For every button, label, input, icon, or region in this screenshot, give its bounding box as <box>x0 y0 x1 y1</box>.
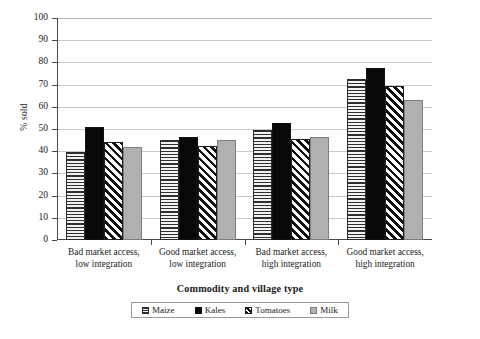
category-label: Good market access,low integration <box>151 246 245 270</box>
category-label: Bad market access,high integration <box>245 246 339 270</box>
legend-label: Milk <box>320 305 338 315</box>
bar-maize <box>347 79 366 240</box>
bar-maize <box>160 140 179 240</box>
bar-maize <box>66 152 85 240</box>
legend-item-tomatoes[interactable]: Tomatoes <box>245 305 290 315</box>
category-label: Good market access,high integration <box>338 246 432 270</box>
category-label-line2: low integration <box>57 258 151 270</box>
bar-maize <box>253 130 272 240</box>
legend-label: Maize <box>152 305 175 315</box>
bar-kales <box>85 127 104 240</box>
category-label-line1: Good market access, <box>159 247 236 257</box>
x-axis-title: Commodity and village type <box>0 283 480 294</box>
y-axis-tick-label: 100 <box>20 13 48 23</box>
y-axis-tick-label: 20 <box>20 191 48 201</box>
y-axis-tick-label: 50 <box>20 124 48 134</box>
y-axis-tick-label: 80 <box>20 57 48 67</box>
bar-group <box>151 18 245 240</box>
bar-tomatoes <box>385 86 404 240</box>
y-axis-tick-label: 70 <box>20 80 48 90</box>
bar-tomatoes <box>291 139 310 240</box>
bar-group <box>245 18 339 240</box>
bar-group <box>338 18 432 240</box>
bar-kales <box>272 123 291 240</box>
bar-kales <box>179 137 198 240</box>
bar-chart: % sold 1009080706050403020100 Bad market… <box>0 0 480 339</box>
category-label-line2: high integration <box>338 258 432 270</box>
bar-tomatoes <box>198 146 217 240</box>
y-axis-tick-label: 40 <box>20 146 48 156</box>
bar-tomatoes <box>104 142 123 240</box>
legend-label: Kales <box>205 305 226 315</box>
legend-swatch-tomatoes-icon <box>245 307 252 314</box>
bar-milk <box>123 147 142 240</box>
legend-item-milk[interactable]: Milk <box>310 305 338 315</box>
bar-group <box>57 18 151 240</box>
x-axis-tick-mark <box>151 240 152 245</box>
legend-swatch-milk-icon <box>310 307 317 314</box>
y-axis-tick-label: 90 <box>20 35 48 45</box>
category-label-line1: Good market access, <box>347 247 424 257</box>
legend-label: Tomatoes <box>255 305 290 315</box>
y-axis-tick-label: 30 <box>20 168 48 178</box>
y-axis-tick-mark <box>52 240 57 241</box>
category-label-line1: Bad market access, <box>68 247 140 257</box>
legend-swatch-maize-icon <box>142 307 149 314</box>
bar-kales <box>366 68 385 240</box>
y-axis-tick-label: 0 <box>20 235 48 245</box>
x-axis-category-labels: Bad market access,low integrationGood ma… <box>57 246 432 270</box>
y-axis-tick-label: 60 <box>20 102 48 112</box>
x-axis-tick-mark <box>245 240 246 245</box>
y-axis-title: % sold <box>19 87 29 147</box>
legend-item-maize[interactable]: Maize <box>142 305 175 315</box>
category-label-line2: low integration <box>151 258 245 270</box>
category-label-line2: high integration <box>245 258 339 270</box>
bar-milk <box>310 137 329 240</box>
legend-swatch-kales-icon <box>195 307 202 314</box>
legend-item-kales[interactable]: Kales <box>195 305 226 315</box>
category-label: Bad market access,low integration <box>57 246 151 270</box>
x-axis-tick-mark <box>338 240 339 245</box>
chart-legend: MaizeKalesTomatoesMilk <box>131 302 349 318</box>
bar-milk <box>404 100 423 240</box>
bar-milk <box>217 140 236 240</box>
category-label-line1: Bad market access, <box>256 247 328 257</box>
y-axis-tick-label: 10 <box>20 213 48 223</box>
bar-groups <box>57 18 432 240</box>
